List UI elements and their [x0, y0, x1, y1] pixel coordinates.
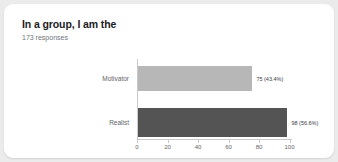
bar-realist[interactable]	[138, 108, 287, 137]
x-axis-tick-label: 60	[219, 144, 239, 150]
category-label-realist: Realist	[4, 119, 129, 126]
x-axis-tick	[168, 140, 169, 143]
x-axis-tick-label: 20	[158, 144, 178, 150]
x-axis-tick-label: 100	[280, 144, 300, 150]
x-axis-tick	[198, 140, 199, 143]
x-axis-tick	[290, 140, 291, 143]
bar-chart: 020406080100Motivator75 (43.4%)Realist98…	[4, 4, 334, 158]
bar-value-realist: 98 (56.6%)	[291, 120, 318, 126]
x-axis-tick	[137, 140, 138, 143]
x-axis-tick-label: 40	[188, 144, 208, 150]
screenshot-root: In a group, I am the 173 responses 02040…	[0, 0, 338, 162]
x-axis-tick-label: 80	[249, 144, 269, 150]
x-axis-tick-label: 0	[127, 144, 147, 150]
x-axis-tick	[259, 140, 260, 143]
bar-motivator[interactable]	[138, 66, 252, 91]
x-axis-tick	[229, 140, 230, 143]
x-axis-line	[137, 139, 292, 140]
bar-value-motivator: 75 (43.4%)	[256, 76, 283, 82]
category-label-motivator: Motivator	[4, 75, 129, 82]
survey-result-card: In a group, I am the 173 responses 02040…	[4, 4, 334, 158]
